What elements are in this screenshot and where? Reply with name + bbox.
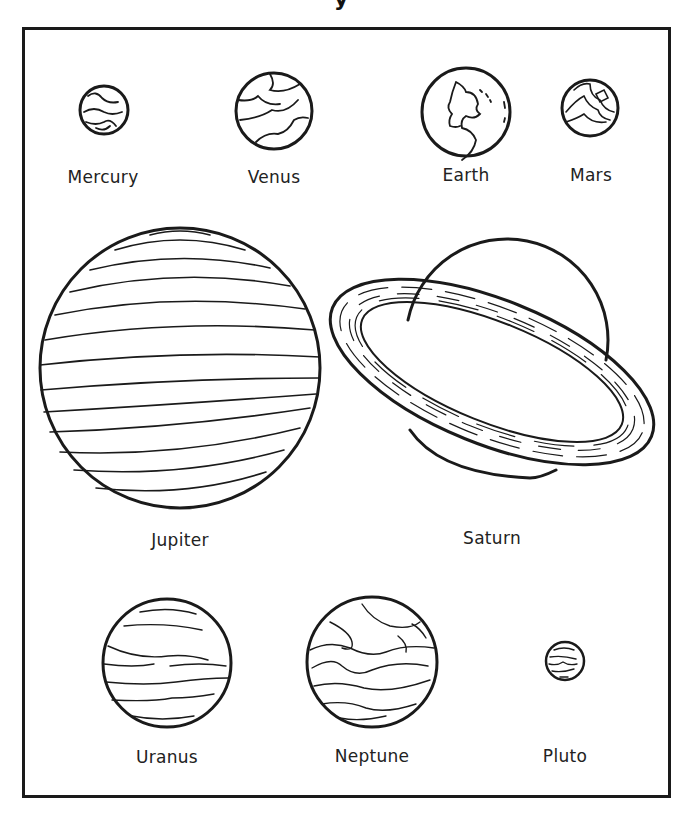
jupiter-icon [40, 228, 320, 508]
mars-icon [562, 80, 618, 136]
label-mercury: Mercury [67, 167, 138, 187]
neptune-icon [307, 597, 437, 727]
venus-icon [236, 73, 312, 149]
saturn-icon [306, 239, 679, 503]
label-mars: Mars [570, 165, 612, 185]
label-jupiter: Jupiter [151, 530, 209, 550]
earth-icon [422, 68, 510, 160]
label-pluto: Pluto [543, 746, 587, 766]
pluto-icon [546, 642, 584, 680]
label-earth: Earth [442, 165, 489, 185]
label-neptune: Neptune [335, 746, 410, 766]
uranus-icon [103, 599, 231, 727]
label-uranus: Uranus [136, 747, 198, 767]
label-venus: Venus [248, 167, 301, 187]
planets-illustration [0, 0, 695, 818]
label-saturn: Saturn [463, 528, 521, 548]
mercury-icon [80, 86, 128, 134]
